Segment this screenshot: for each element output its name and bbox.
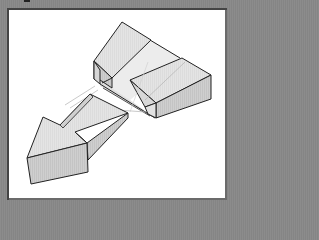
isometric-illustration bbox=[0, 0, 234, 207]
arrow-piece bbox=[27, 94, 128, 184]
